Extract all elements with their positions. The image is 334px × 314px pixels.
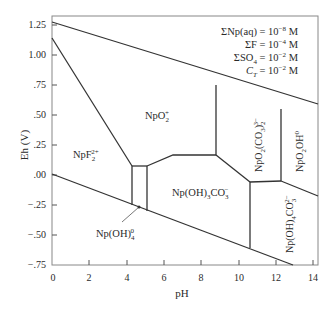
x-tick-labels: 0 2 4 6 8 10 12 14 [51, 272, 319, 283]
conditions-block: ΣNp(aq) = 10−8 M ΣF = 10−4 M ΣSO4 = 10−2… [221, 25, 299, 79]
svg-text:−.75: −.75 [28, 259, 46, 270]
condition-f: ΣF = 10−4 M [245, 38, 299, 50]
svg-text:0: 0 [51, 272, 56, 283]
pourbaix-diagram: 1.25 1.00 .75 .50 .25 .00 −.25 −.50 −.75… [0, 0, 334, 314]
svg-text:4: 4 [125, 272, 130, 283]
field-npf2: NpF22+ [73, 148, 99, 163]
svg-text:1.25: 1.25 [29, 19, 47, 30]
arrow-tip [138, 206, 141, 209]
svg-text:.25: .25 [34, 139, 47, 150]
field-npoh4: Np(OH)40 [96, 227, 135, 242]
svg-text:6: 6 [162, 272, 167, 283]
field-npo2co3: NpO2(CO3)23− [252, 118, 267, 172]
condition-so4: ΣSO4 = 10−2 M [234, 51, 299, 66]
condition-np: ΣNp(aq) = 10−8 M [221, 25, 299, 38]
svg-text:.50: .50 [34, 109, 47, 120]
x-axis-label: pH [175, 287, 189, 299]
svg-text:14: 14 [308, 272, 318, 283]
svg-text:.75: .75 [34, 79, 47, 90]
x-ticks [89, 260, 313, 265]
svg-text:8: 8 [199, 272, 204, 283]
field-npo2oh: NpO2OH0 [293, 131, 308, 172]
y-ticks [52, 25, 57, 235]
svg-text:2: 2 [87, 272, 92, 283]
pointer-arrow [122, 207, 139, 222]
svg-text:−.25: −.25 [28, 199, 46, 210]
svg-text:12: 12 [271, 272, 281, 283]
field-npoh4co3: Np(OH)4CO32− [283, 195, 298, 253]
field-npoh3co3: Np(OH)3CO3− [172, 186, 229, 201]
svg-text:.00: .00 [34, 169, 47, 180]
svg-text:1.00: 1.00 [29, 49, 47, 60]
y-tick-labels: 1.25 1.00 .75 .50 .25 .00 −.25 −.50 −.75 [28, 19, 46, 270]
field-npo2: NpO2+ [145, 109, 169, 124]
svg-text:−.50: −.50 [28, 229, 46, 240]
condition-ct: CT = 10−2 M [246, 64, 299, 79]
y-axis-label: Eh (V) [18, 130, 31, 161]
svg-text:10: 10 [234, 272, 244, 283]
